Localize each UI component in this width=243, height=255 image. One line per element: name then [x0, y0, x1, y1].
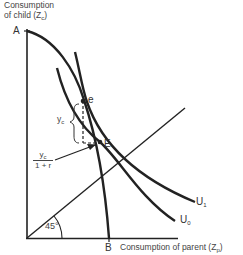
x-axis-label-close: ) [220, 242, 223, 252]
y-axis-label: Consumption of child (Zc) [4, 1, 54, 22]
label-U1: U1 [196, 196, 207, 209]
fraction-numerator: yc [33, 150, 53, 161]
label-E: E [104, 138, 111, 150]
label-U0: U0 [180, 214, 191, 227]
x-axis-label: Consumption of parent (Zp) [120, 243, 223, 254]
fraction-denominator: 1 + r [33, 161, 53, 170]
x-axis-label-text: Consumption of parent (Z [120, 242, 216, 252]
ppf-curve [27, 31, 109, 238]
diagram-canvas [0, 0, 243, 255]
fraction-label: yc 1 + r [33, 150, 53, 170]
point-E-dot [98, 140, 103, 145]
label-A: A [13, 25, 20, 37]
y-axis-label-line2: of child (Z [4, 10, 41, 20]
fraction-num-sub: c [44, 154, 47, 160]
brace-label: yc [57, 115, 64, 126]
label-U0-sub: 0 [187, 220, 190, 226]
y-axis-label-line1: Consumption [4, 0, 54, 10]
point-e-dot [81, 99, 86, 104]
label-B: B [105, 242, 112, 254]
45-degree-line [27, 108, 185, 238]
label-e: e [88, 94, 94, 106]
angle-label: 45° [45, 221, 59, 231]
label-U1-sub: 1 [203, 202, 206, 208]
brace-label-sub: c [61, 119, 64, 125]
y-axis-label-close: ) [44, 10, 47, 20]
brace-yc [70, 104, 79, 143]
